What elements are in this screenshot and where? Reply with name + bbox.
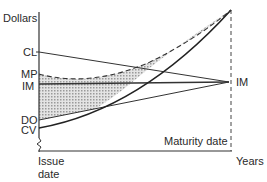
label-cv: CV <box>21 124 36 136</box>
label-cl: CL <box>23 46 37 58</box>
x-axis-label: Years <box>236 155 264 167</box>
label-mp: MP <box>21 68 38 80</box>
label-im-right: IM <box>236 76 248 88</box>
maturity-date-label: Maturity date <box>164 135 228 147</box>
y-axis-label: Dollars <box>3 12 37 24</box>
label-im-left: IM <box>22 80 34 92</box>
date-label: date <box>38 168 59 180</box>
issue-label: Issue <box>38 155 64 167</box>
shaded-premium-region <box>39 10 231 84</box>
axis-break-icon <box>37 138 41 150</box>
